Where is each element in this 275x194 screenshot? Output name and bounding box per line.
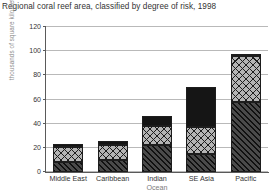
y-tick-label: 0 [37, 168, 41, 175]
y-tick-mark [43, 50, 46, 51]
y-tick-label: 80 [33, 71, 41, 78]
y-tick-mark [43, 99, 46, 100]
y-tick-label: 40 [33, 119, 41, 126]
y-tick-label: 20 [33, 143, 41, 150]
bar-segment-medium-risk[interactable] [53, 147, 83, 163]
y-tick-mark [43, 74, 46, 75]
x-axis-line [45, 172, 269, 173]
bar-segment-low-risk[interactable] [142, 145, 172, 172]
chart-root: Regional coral reef area, classified by … [0, 0, 275, 194]
y-axis-label-wrapper: thousands of square kilometres [7, 0, 17, 93]
y-tick-mark [43, 171, 46, 172]
bar-segment-low-risk[interactable] [231, 102, 261, 172]
gridline-120: 120 [46, 26, 268, 27]
y-tick-mark [43, 26, 46, 27]
y-tick-mark [43, 123, 46, 124]
bar-segment-low-risk[interactable] [53, 162, 83, 172]
y-tick-label: 100 [29, 47, 41, 54]
bar-segment-medium-risk[interactable] [142, 126, 172, 145]
y-tick-label: 120 [29, 23, 41, 30]
y-tick-mark [43, 147, 46, 148]
y-axis-label: thousands of square kilometres [7, 0, 17, 93]
y-tick-label: 60 [33, 95, 41, 102]
bar-segment-high-risk[interactable] [231, 54, 261, 56]
gridline-100: 100 [46, 50, 268, 51]
x-tick-label: Pacific [218, 175, 274, 184]
bar-segment-high-risk[interactable] [142, 116, 172, 126]
bar-segment-high-risk[interactable] [98, 141, 128, 146]
plot-area: 020406080100120 [46, 27, 268, 172]
bar-segment-low-risk[interactable] [186, 154, 216, 172]
bar-segment-medium-risk[interactable] [98, 145, 128, 160]
bar-segment-medium-risk[interactable] [231, 56, 261, 102]
bar-segment-high-risk[interactable] [53, 144, 83, 146]
chart-title: Regional coral reef area, classified by … [2, 2, 273, 12]
bar-segment-low-risk[interactable] [98, 160, 128, 172]
bar-segment-high-risk[interactable] [186, 87, 216, 127]
bar-segment-medium-risk[interactable] [186, 127, 216, 154]
